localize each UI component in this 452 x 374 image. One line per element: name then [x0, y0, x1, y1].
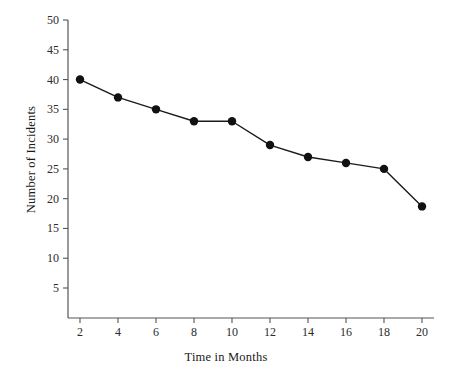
y-tick-label: 5 [53, 281, 59, 295]
data-point [266, 141, 274, 149]
x-tick-label: 8 [191, 325, 197, 339]
y-tick-label: 30 [47, 132, 59, 146]
y-tick-label: 50 [47, 13, 59, 27]
x-tick-label: 12 [264, 325, 276, 339]
y-tick-label: 20 [47, 192, 59, 206]
chart-container: Number of Incidents 5101520253035404550 … [0, 0, 452, 374]
x-tick-label: 10 [226, 325, 238, 339]
x-axis-ticks: 2468101214161820 [77, 318, 428, 339]
x-tick-label: 2 [77, 325, 83, 339]
data-point [76, 75, 84, 83]
data-point [114, 93, 122, 101]
x-tick-label: 14 [302, 325, 314, 339]
y-tick-label: 10 [47, 251, 59, 265]
y-tick-label: 15 [47, 221, 59, 235]
y-tick-label: 45 [47, 43, 59, 57]
y-axis-ticks: 5101520253035404550 [47, 13, 68, 295]
data-point [304, 153, 312, 161]
x-tick-label: 4 [115, 325, 121, 339]
y-tick-label: 35 [47, 102, 59, 116]
x-tick-label: 16 [340, 325, 352, 339]
data-line [80, 80, 422, 207]
data-point [228, 117, 236, 125]
data-point [418, 202, 426, 210]
y-tick-label: 40 [47, 73, 59, 87]
x-axis-title: Time in Months [0, 350, 452, 365]
x-tick-label: 18 [378, 325, 390, 339]
x-tick-label: 20 [416, 325, 428, 339]
y-tick-label: 25 [47, 162, 59, 176]
x-tick-label: 6 [153, 325, 159, 339]
data-point-markers [76, 75, 426, 210]
data-point [342, 159, 350, 167]
data-point [190, 117, 198, 125]
data-point [380, 165, 388, 173]
axis-lines [68, 20, 434, 318]
line-chart-plot: 5101520253035404550 2468101214161820 [0, 0, 452, 374]
data-point [152, 105, 160, 113]
